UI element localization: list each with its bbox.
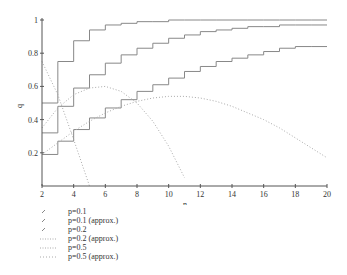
legend-item: p=0.5 (approx.) — [40, 252, 118, 261]
legend-label: p=0.5 — [68, 243, 87, 252]
chart: 24681012141618200.20.40.60.81 q n — [0, 0, 347, 205]
series-line-0 — [42, 47, 327, 155]
legend-swatch-solid-icon — [40, 225, 58, 234]
x-axis-label: n — [183, 200, 187, 205]
y-tick-label: 0.8 — [28, 49, 38, 58]
legend: p=0.1 p=0.1 (approx.) p=0.2 p=0.2 (appro… — [40, 207, 118, 261]
x-tick-label: 8 — [135, 190, 139, 199]
legend-label: p=0.1 — [68, 207, 87, 216]
legend-swatch-dotted-icon — [40, 234, 58, 243]
legend-label: p=0.2 (approx.) — [68, 234, 118, 243]
legend-label: p=0.5 (approx.) — [68, 252, 118, 261]
x-tick-label: 16 — [260, 190, 268, 199]
x-tick-label: 2 — [40, 190, 44, 199]
y-tick-label: 1 — [34, 16, 38, 25]
legend-item: p=0.5 — [40, 243, 118, 252]
legend-swatch-dotted-icon — [40, 252, 58, 261]
x-tick-label: 18 — [291, 190, 299, 199]
y-axis-label: q — [15, 104, 24, 108]
x-tick-label: 4 — [72, 190, 76, 199]
legend-swatch-dotted-icon — [40, 243, 58, 252]
x-tick-label: 20 — [323, 190, 331, 199]
legend-label: p=0.2 — [68, 225, 87, 234]
plot-lines — [42, 20, 327, 186]
legend-item: p=0.2 — [40, 225, 118, 234]
series-line-5 — [42, 62, 90, 187]
x-tick-label: 6 — [103, 190, 107, 199]
y-tick-label: 0.6 — [28, 82, 38, 91]
x-tick-label: 14 — [228, 190, 236, 199]
legend-swatch-solid-icon — [40, 216, 58, 225]
legend-swatch-solid-icon — [40, 207, 58, 216]
legend-item: p=0.1 — [40, 207, 118, 216]
y-tick-label: 0.4 — [28, 116, 38, 125]
series-line-1 — [42, 96, 327, 157]
legend-item: p=0.2 (approx.) — [40, 234, 118, 243]
series-line-3 — [42, 86, 185, 177]
x-tick-label: 10 — [165, 190, 173, 199]
legend-item: p=0.1 (approx.) — [40, 216, 118, 225]
legend-label: p=0.1 (approx.) — [68, 216, 118, 225]
y-tick-label: 0.2 — [28, 149, 38, 158]
x-tick-label: 12 — [196, 190, 204, 199]
